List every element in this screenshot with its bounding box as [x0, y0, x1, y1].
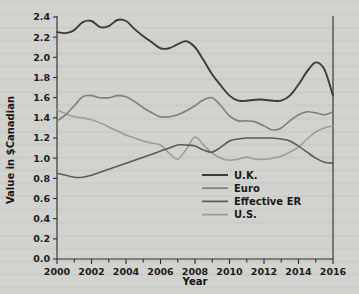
chart-legend: U.K.EuroEffective ERU.S.: [202, 170, 301, 221]
x-axis-title: Year: [182, 276, 208, 287]
data-series-group: [57, 20, 333, 178]
series-line-euro: [57, 95, 333, 130]
x-tick-label: 2004: [113, 266, 140, 277]
y-tick-label: 1.8: [33, 72, 50, 83]
y-tick-label: 2.0: [33, 52, 50, 63]
legend-label: U.S.: [234, 209, 257, 220]
y-tick-label: 0.2: [33, 233, 50, 244]
legend-label: Effective ER: [234, 196, 301, 207]
series-line-u-s: [57, 110, 333, 160]
y-tick-label: 1.6: [33, 92, 50, 103]
y-tick-label: 0.8: [33, 173, 50, 184]
x-tick-label: 2002: [78, 266, 104, 277]
x-tick-label: 2012: [251, 266, 277, 277]
x-axis-ticks: [57, 259, 333, 264]
legend-label: U.K.: [234, 170, 257, 181]
series-line-effective-er: [57, 138, 333, 178]
legend-label: Euro: [234, 183, 260, 194]
x-tick-label: 2000: [44, 266, 71, 277]
y-tick-label: 0.4: [33, 213, 50, 224]
chart-figure: 0.00.20.40.60.81.01.21.41.61.82.02.22.4 …: [0, 0, 359, 294]
line-chart: 0.00.20.40.60.81.01.21.41.61.82.02.22.4 …: [0, 0, 359, 294]
x-tick-label: 2014: [285, 266, 312, 277]
y-tick-label: 1.4: [33, 112, 50, 123]
y-tick-label: 0.0: [33, 253, 50, 264]
y-tick-label: 2.2: [33, 32, 50, 43]
y-tick-label: 0.6: [33, 193, 50, 204]
x-tick-label: 2006: [147, 266, 174, 277]
y-axis-tick-labels: 0.00.20.40.60.81.01.21.41.61.82.02.22.4: [33, 11, 50, 264]
x-tick-label: 2010: [216, 266, 243, 277]
y-tick-label: 1.2: [33, 132, 50, 143]
series-line-u-k: [57, 20, 333, 102]
y-axis-title: Value in $Canadian: [5, 96, 16, 204]
y-axis-ticks: [53, 17, 57, 259]
y-tick-label: 1.0: [33, 153, 50, 164]
x-tick-label: 2016: [320, 266, 347, 277]
y-tick-label: 2.4: [33, 11, 50, 22]
